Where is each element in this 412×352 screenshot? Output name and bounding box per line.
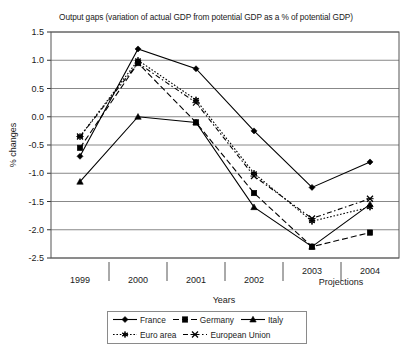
data-point-marker: [122, 317, 128, 323]
y-axis-tick-labels: 1.51.00.50.0-0.5-1.0-1.5-2.0-2.5: [28, 27, 44, 263]
y-axis-title: % changes: [8, 122, 18, 167]
data-point-marker: [182, 317, 187, 322]
legend-swatch: [112, 314, 138, 325]
data-point-marker: [251, 190, 256, 195]
legend-item-germany[interactable]: Germany: [172, 314, 240, 325]
x-axis-tick-label: 2000: [128, 275, 148, 285]
y-axis-tick-label: 0.5: [31, 84, 44, 94]
legend-swatch: [172, 314, 198, 325]
x-axis-tick-label: 1999: [70, 275, 90, 285]
series-line: [80, 49, 370, 187]
legend-item-france[interactable]: France: [112, 314, 172, 325]
legend-swatch: [112, 329, 138, 340]
data-point-marker: [77, 153, 83, 159]
legend-item-label: France: [140, 315, 166, 325]
data-point-marker: [77, 145, 82, 150]
y-axis-tick-label: -2.5: [28, 253, 44, 263]
x-axis-tick-label: 2003: [302, 266, 322, 276]
x-axis-tick-label: 2004: [360, 266, 380, 276]
series-italy: [77, 114, 373, 250]
legend-item-european-union[interactable]: European Union: [182, 329, 276, 340]
data-series-layer: [76, 46, 373, 249]
legend-row-secondary: Euro areaEuropean Union: [108, 327, 306, 342]
legend-item-euro-area[interactable]: Euro area: [112, 329, 182, 340]
chart-legend: FranceGermanyItaly Euro areaEuropean Uni…: [107, 311, 307, 344]
series-line: [80, 117, 370, 247]
series-european-union: [76, 60, 373, 221]
y-axis-tick-label: -2.0: [28, 225, 44, 235]
x-axis-title: Years: [213, 295, 236, 305]
legend-swatch: [240, 314, 266, 325]
y-axis-tick-label: 0.0: [31, 112, 44, 122]
legend-item-label: Euro area: [140, 330, 176, 340]
chart-figure: Output gaps (variation of actual GDP fro…: [0, 0, 412, 352]
data-point-marker: [192, 332, 199, 338]
legend-item-label: European Union: [210, 330, 270, 340]
data-point-marker: [135, 46, 141, 52]
y-axis-tick-label: 1.0: [31, 55, 44, 65]
data-point-marker: [367, 159, 373, 165]
legend-row-primary: FranceGermanyItaly: [108, 312, 306, 327]
legend-swatch: [182, 329, 208, 340]
series-euro-area: [77, 57, 372, 224]
y-axis-tick-label: -1.5: [28, 197, 44, 207]
series-line: [80, 63, 370, 218]
projections-annotation: Projections: [319, 277, 364, 287]
legend-item-italy[interactable]: Italy: [240, 314, 289, 325]
legend-item-label: Germany: [200, 315, 234, 325]
x-axis-tick-label: 2002: [244, 275, 264, 285]
data-point-marker: [367, 230, 372, 235]
chart-plot-area: 1.51.00.50.0-0.5-1.0-1.5-2.0-2.5 1999200…: [0, 0, 412, 352]
series-line: [80, 63, 370, 247]
y-axis-tick-label: -1.0: [28, 168, 44, 178]
y-axis-tick-label: -0.5: [28, 140, 44, 150]
legend-item-label: Italy: [268, 315, 283, 325]
series-france: [77, 46, 373, 190]
y-axis-tick-label: 1.5: [31, 27, 44, 37]
gridlines: [47, 32, 399, 258]
x-axis-tick-label: 2001: [186, 275, 206, 285]
